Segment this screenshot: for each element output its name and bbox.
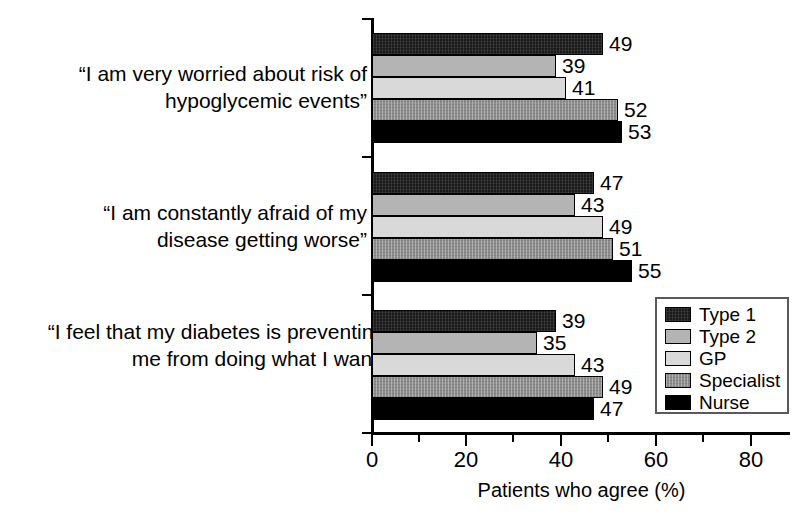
x-axis-tick-40	[560, 435, 562, 446]
x-axis-tick-60	[655, 435, 657, 446]
bar-specialist[interactable]	[372, 376, 603, 398]
bar-value: 55	[638, 259, 661, 282]
legend-label-type2: Type 2	[699, 326, 756, 347]
x-axis-minor-tick-50	[607, 435, 609, 442]
bar-chart: 0 20 40 60 80 Patients who agree (%) “I …	[0, 0, 803, 520]
y-axis-tick	[362, 432, 372, 434]
y-axis-tick	[362, 18, 372, 20]
bar-type2[interactable]	[372, 332, 537, 354]
bar-type1[interactable]	[372, 33, 603, 55]
legend-item-specialist[interactable]: Specialist	[665, 370, 787, 391]
bar-gp[interactable]	[372, 77, 566, 99]
legend-item-nurse[interactable]: Nurse	[665, 392, 787, 413]
legend-swatch-specialist-icon	[665, 373, 691, 388]
x-axis-label-40: 40	[531, 447, 591, 473]
x-axis-label-20: 20	[436, 447, 496, 473]
bar-nurse[interactable]	[372, 121, 622, 143]
x-axis-label-60: 60	[626, 447, 686, 473]
bar-nurse[interactable]	[372, 260, 632, 282]
legend-swatch-gp-icon	[665, 351, 691, 366]
bar-value: 49	[609, 215, 632, 238]
category-label-1: “I am constantly afraid of my disease ge…	[17, 199, 367, 253]
y-axis-tick	[362, 294, 372, 296]
legend-item-type2[interactable]: Type 2	[665, 326, 787, 347]
bar-value: 35	[543, 331, 566, 354]
legend-swatch-nurse-icon	[665, 395, 691, 410]
bar-value: 41	[572, 76, 595, 99]
bar-nurse[interactable]	[372, 398, 594, 420]
category-label-0-line-2: hypoglycemic events”	[17, 87, 367, 114]
category-label-0-line-1: “I am very worried about risk of	[17, 60, 367, 87]
bar-specialist[interactable]	[372, 99, 618, 121]
x-axis-minor-tick-30	[512, 435, 514, 442]
x-axis-tick-80	[750, 435, 752, 446]
chart-legend: Type 1 Type 2 GP Specialist Nurse	[655, 297, 789, 414]
bar-value: 39	[562, 309, 585, 332]
bar-value: 51	[619, 237, 642, 260]
legend-label-type1: Type 1	[699, 304, 756, 325]
bar-value: 49	[609, 375, 632, 398]
x-axis-title: Patients who agree (%)	[372, 478, 791, 502]
bar-value: 52	[624, 98, 647, 121]
legend-label-specialist: Specialist	[699, 370, 780, 391]
bar-type1[interactable]	[372, 172, 594, 194]
legend-label-nurse: Nurse	[699, 392, 750, 413]
y-axis-tick	[362, 156, 372, 158]
bar-gp[interactable]	[372, 216, 603, 238]
legend-item-gp[interactable]: GP	[665, 348, 787, 369]
bar-type2[interactable]	[372, 55, 556, 77]
x-axis-tick-20	[465, 435, 467, 446]
bar-value: 49	[609, 32, 632, 55]
legend-label-gp: GP	[699, 348, 726, 369]
bar-value: 43	[581, 353, 604, 376]
bar-type2[interactable]	[372, 194, 575, 216]
category-label-1-line-2: disease getting worse”	[17, 226, 367, 253]
bar-value: 39	[562, 54, 585, 77]
x-axis-tick-0	[371, 435, 373, 446]
x-axis-minor-tick-70	[702, 435, 704, 442]
category-label-2-line-2: me from doing what I want”	[5, 345, 385, 372]
x-axis-label-80: 80	[721, 447, 781, 473]
x-axis-minor-tick-10	[418, 435, 420, 442]
bar-gp[interactable]	[372, 354, 575, 376]
bar-value: 53	[628, 120, 651, 143]
x-axis-line	[371, 432, 790, 435]
bar-type1[interactable]	[372, 310, 556, 332]
legend-swatch-type1-icon	[665, 307, 691, 322]
category-label-0: “I am very worried about risk of hypogly…	[17, 60, 367, 114]
bar-value: 47	[600, 397, 623, 420]
legend-item-type1[interactable]: Type 1	[665, 304, 787, 325]
legend-swatch-type2-icon	[665, 329, 691, 344]
category-label-2-line-1: “I feel that my diabetes is preventing	[5, 318, 385, 345]
category-label-1-line-1: “I am constantly afraid of my	[17, 199, 367, 226]
category-label-2: “I feel that my diabetes is preventing m…	[5, 318, 385, 372]
bar-value: 47	[600, 171, 623, 194]
bar-specialist[interactable]	[372, 238, 613, 260]
x-axis-label-0: 0	[342, 447, 402, 473]
bar-value: 43	[581, 193, 604, 216]
